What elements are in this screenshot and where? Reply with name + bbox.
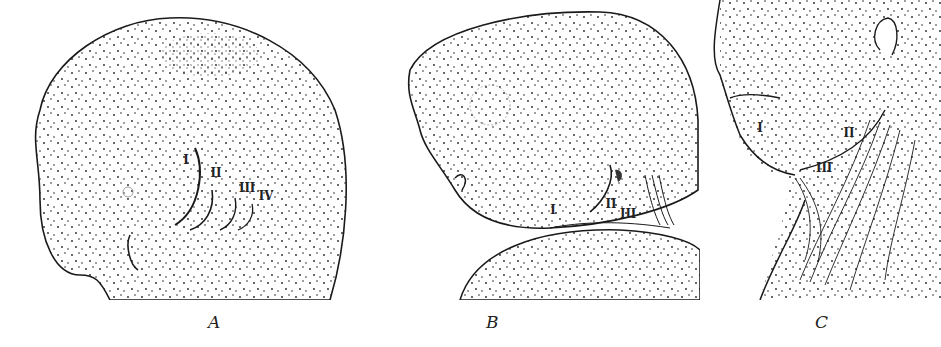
panel-b-label-i: I: [550, 202, 555, 217]
panel-b-label-iii: III: [620, 206, 636, 221]
panel-a-label-ii: II: [211, 165, 222, 180]
panel-b-caption: B: [486, 312, 499, 332]
panel-c-label-iii: III: [816, 160, 832, 175]
fetus-c-illustration: [700, 0, 941, 300]
panel-a-label-iii: III: [239, 180, 255, 195]
panel-a-embryo-drawing: [0, 0, 360, 300]
panel-a-label-i: I: [183, 152, 188, 167]
panel-c-fetus-drawing: [700, 0, 941, 300]
embryo-a-illustration: [0, 0, 360, 300]
panel-c-label-i: I: [757, 120, 762, 135]
panel-c-label-ii: II: [844, 125, 855, 140]
panel-c-caption: C: [815, 312, 828, 332]
panel-b-embryo-drawing: [400, 0, 700, 300]
panel-a-caption: A: [208, 312, 220, 332]
panel-b-label-ii: II: [606, 196, 617, 211]
panel-a-label-iv: IV: [259, 188, 274, 203]
embryo-b-illustration: [400, 0, 700, 300]
